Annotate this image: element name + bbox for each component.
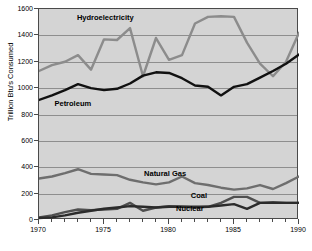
x-tick-mark: [207, 219, 208, 222]
x-tick-label: 1975: [95, 226, 111, 234]
x-tick-mark: [181, 219, 182, 222]
y-tick-label: 200: [21, 189, 33, 196]
y-tick-label: 1600: [17, 5, 33, 12]
y-axis-title: Trillion Btu's Consumed: [7, 7, 15, 157]
x-tick-mark: [272, 219, 273, 222]
y-tick-label: 600: [21, 136, 33, 143]
x-tick-mark: [155, 219, 156, 222]
plot-area: HydroelectricityPetroleumNatural GasCoal…: [38, 8, 298, 219]
chart-title-clipped: U.S. Energy Consumption by Source: [0, 0, 312, 5]
y-tick-label: 1000: [17, 84, 33, 91]
series-label-nuclear: Nuclear: [176, 205, 204, 213]
series-line-petroleum: [39, 55, 299, 100]
series-label-petroleum: Petroleum: [54, 100, 91, 108]
y-tick-label: 1200: [17, 57, 33, 64]
x-tick-mark: [142, 219, 143, 222]
x-tick-mark: [285, 219, 286, 222]
x-tick-mark: [116, 219, 117, 222]
series-label-hydroelectricity: Hydroelectricity: [77, 14, 134, 22]
x-tick-mark: [51, 219, 52, 222]
x-tick-mark: [298, 219, 299, 224]
y-tick-label: 400: [21, 163, 33, 170]
x-tick-mark: [129, 219, 130, 222]
x-tick-mark: [38, 219, 39, 224]
x-tick-label: 1970: [30, 226, 46, 234]
x-tick-mark: [64, 219, 65, 222]
x-tick-mark: [220, 219, 221, 222]
x-tick-mark: [233, 219, 234, 224]
y-tick-label: 1400: [17, 31, 33, 38]
x-tick-mark: [77, 219, 78, 222]
series-label-natural-gas: Natural Gas: [144, 170, 186, 178]
x-tick-mark: [103, 219, 104, 224]
x-tick-mark: [90, 219, 91, 222]
x-tick-mark: [259, 219, 260, 222]
y-axis: Trillion Btu's Consumed 0200400600800100…: [0, 0, 38, 219]
series-lines: [39, 9, 299, 220]
x-tick-label: 1985: [225, 226, 241, 234]
x-tick-mark: [168, 219, 169, 224]
x-tick-mark: [194, 219, 195, 222]
series-line-hydroelectricity: [39, 16, 299, 76]
chart-container: U.S. Energy Consumption by Source Trilli…: [0, 0, 312, 251]
x-axis: 19701975198019851990: [38, 219, 298, 249]
x-tick-label: 1990: [290, 226, 306, 234]
x-tick-mark: [246, 219, 247, 222]
series-label-coal: Coal: [191, 192, 207, 200]
y-tick-label: 0: [29, 216, 33, 223]
x-tick-label: 1980: [160, 226, 176, 234]
y-tick-label: 800: [21, 110, 33, 117]
